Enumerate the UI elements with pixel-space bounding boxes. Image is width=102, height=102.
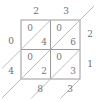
top-label-col-2: 3 bbox=[60, 7, 72, 17]
bottom-result-col-2: 3 bbox=[64, 85, 76, 95]
lattice-cell-r2c2-tens: 0 bbox=[53, 53, 65, 63]
right-label-row-2: 1 bbox=[84, 60, 96, 70]
lattice-cell-r1c2-ones: 6 bbox=[67, 38, 79, 48]
top-label-col-1: 2 bbox=[30, 7, 42, 17]
lattice-cell-r1c2-tens: 0 bbox=[53, 24, 65, 34]
lattice-cell-r2c2-ones: 3 bbox=[67, 67, 79, 77]
lattice-grid-lines bbox=[0, 0, 102, 102]
right-label-row-1: 2 bbox=[84, 30, 96, 40]
lattice-cell-r2c1-ones: 2 bbox=[38, 67, 50, 77]
lattice-cell-r2c1-tens: 0 bbox=[24, 53, 36, 63]
lattice-multiplication-figure: 2 3 2 1 0 4 8 3 0 4 0 6 0 2 0 3 bbox=[0, 0, 102, 102]
bottom-result-col-1: 8 bbox=[34, 85, 46, 95]
left-result-row-1: 0 bbox=[5, 37, 17, 47]
lattice-cell-r1c1-ones: 4 bbox=[38, 38, 50, 48]
left-result-row-2: 4 bbox=[5, 67, 17, 77]
lattice-cell-r1c1-tens: 0 bbox=[24, 24, 36, 34]
diagonal-extension-row-2 bbox=[2, 79, 21, 98]
